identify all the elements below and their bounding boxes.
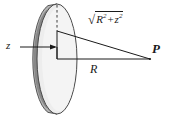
- term-R: R: [96, 13, 103, 25]
- field-point-marker: [149, 58, 151, 60]
- label-P: P: [152, 41, 160, 57]
- radical-sign: √: [88, 12, 95, 28]
- plus-operator: +: [106, 13, 114, 25]
- term-z-exponent: 2: [119, 12, 123, 20]
- figure-canvas: [0, 0, 172, 118]
- radicand: R2+z2: [95, 11, 123, 25]
- charged-disk-figure: z R P √R2+z2: [0, 0, 172, 118]
- label-R: R: [90, 62, 97, 77]
- label-z: z: [6, 39, 10, 51]
- label-hypotenuse-expression: √R2+z2: [88, 11, 123, 28]
